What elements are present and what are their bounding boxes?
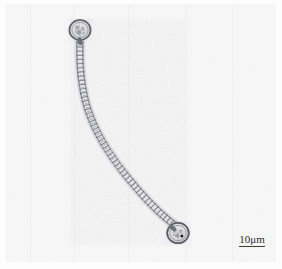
top-heterocyst-neck [80, 40, 81, 44]
bottom-heterocyst [166, 221, 191, 244]
film-grain-overlay [6, 4, 276, 262]
micrograph-image [0, 0, 282, 269]
micrograph-figure: 10μm [0, 0, 282, 269]
bottom-heterocyst-neck [171, 227, 174, 230]
